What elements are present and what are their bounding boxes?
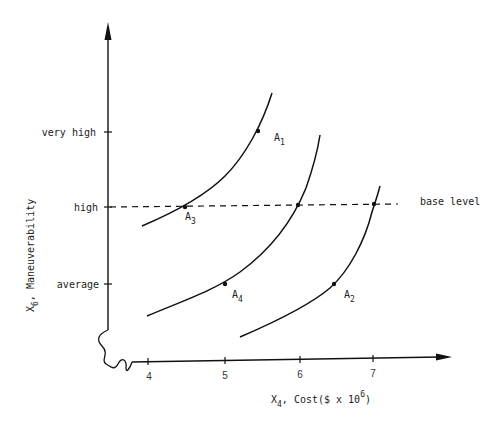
x-tick-6: 6 <box>297 369 303 380</box>
label-a4: A4 <box>232 289 243 304</box>
y-axis <box>99 22 132 370</box>
x-tick-4: 4 <box>146 371 152 382</box>
y-tick-very-high: very high <box>42 127 96 138</box>
base-level-label: base level <box>420 196 480 207</box>
x-axis-title: X4, Cost($ x 106) <box>271 390 371 409</box>
point-a2 <box>332 282 336 286</box>
label-a2: A2 <box>344 289 355 304</box>
x-tick-7: 7 <box>370 368 376 379</box>
y-tick-average: average <box>57 279 99 290</box>
y-tick-high: high <box>74 202 98 213</box>
label-a3: A3 <box>185 211 196 226</box>
y-axis-title: X6, Maneuverability <box>25 199 40 312</box>
label-a1: A1 <box>274 132 285 147</box>
y-axis-arrow-icon <box>105 22 112 40</box>
curve-a3-a1 <box>142 93 272 226</box>
point-a3 <box>183 205 187 209</box>
point-intersect-7 <box>372 202 376 206</box>
x-axis-arrow-icon <box>436 354 452 361</box>
x-tick-5: 5 <box>222 370 228 381</box>
point-intersect-6 <box>296 203 300 207</box>
point-a4 <box>223 282 227 286</box>
x-axis <box>132 354 452 366</box>
base-level-line <box>110 204 398 207</box>
point-a1 <box>256 129 260 133</box>
tradeoff-diagram: very high high average X6, Maneuverabili… <box>0 0 504 433</box>
curve-a2 <box>240 186 380 337</box>
axis-break-icon <box>99 330 132 370</box>
